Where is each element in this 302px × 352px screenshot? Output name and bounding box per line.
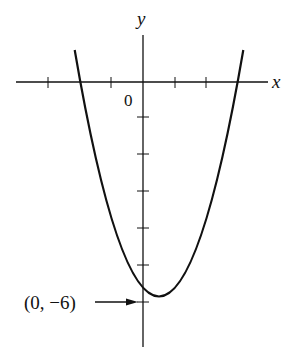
point-annotation-label: (0, −6): [24, 292, 76, 314]
arrow-right-icon: [126, 299, 138, 306]
x-axis-label: x: [271, 71, 281, 92]
parabola-curve: [75, 50, 244, 297]
y-axis-label: y: [135, 8, 146, 29]
origin-label: 0: [124, 91, 133, 110]
parabola-graph: x y 0 (0, −6): [0, 0, 302, 352]
